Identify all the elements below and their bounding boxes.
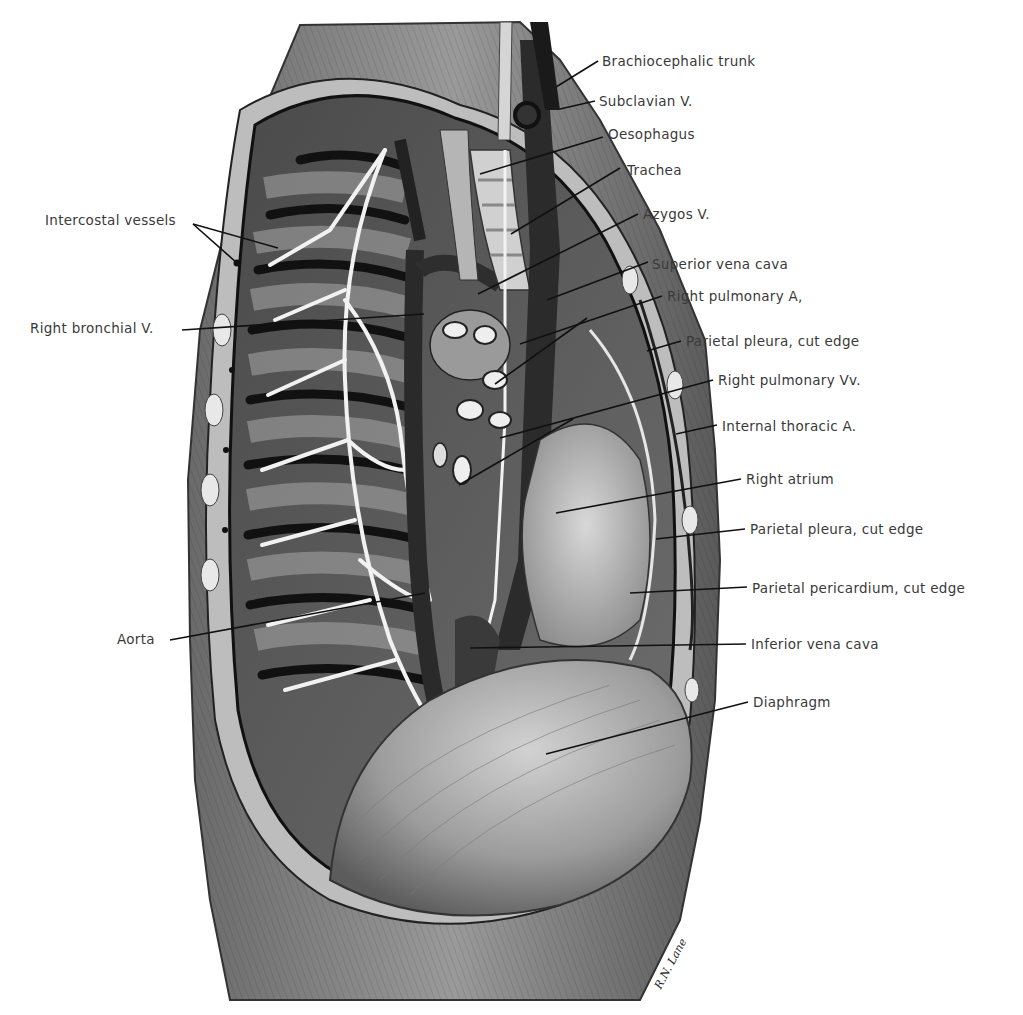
label-diaphragm: Diaphragm	[753, 694, 831, 710]
thorax-illustration	[0, 0, 1023, 1015]
label-oesophagus: Oesophagus	[608, 126, 695, 142]
label-parietal-pleura-1: Parietal pleura, cut edge	[686, 333, 859, 349]
label-right-bronchial-v: Right bronchial V.	[30, 320, 154, 336]
label-azygos-v: Azygos V.	[643, 206, 710, 222]
anatomy-figure: Intercostal vesselsRight bronchial V.Aor…	[0, 0, 1023, 1015]
label-internal-thoracic-a: Internal thoracic A.	[722, 418, 856, 434]
label-trachea: Trachea	[627, 162, 682, 178]
label-brachiocephalic-trunk: Brachiocephalic trunk	[602, 53, 756, 69]
label-intercostal-vessels: Intercostal vessels	[45, 212, 176, 228]
label-parietal-pericardium: Parietal pericardium, cut edge	[752, 580, 965, 596]
label-inferior-vena-cava: Inferior vena cava	[751, 636, 879, 652]
label-right-atrium: Right atrium	[746, 471, 834, 487]
subclavian-vein	[515, 103, 539, 127]
right-atrium	[522, 424, 650, 647]
label-aorta: Aorta	[117, 631, 155, 647]
label-superior-vena-cava: Superior vena cava	[652, 256, 788, 272]
label-right-pulmonary-vv: Right pulmonary Vv.	[718, 372, 861, 388]
label-subclavian-v: Subclavian V.	[599, 93, 693, 109]
label-parietal-pleura-2: Parietal pleura, cut edge	[750, 521, 923, 537]
label-right-pulmonary-a: Right pulmonary A,	[667, 288, 803, 304]
